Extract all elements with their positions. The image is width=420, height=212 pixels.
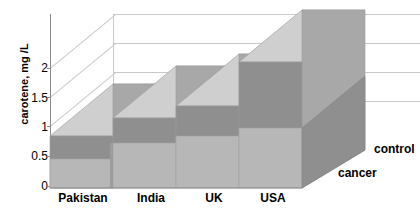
y-tickmark-1-5 [47,97,51,98]
y-tickmark-0 [47,186,51,187]
depth-connector-1-5 [50,43,116,98]
wall-top-edge [113,14,420,15]
x-label-uk: UK [183,191,245,205]
y-tickmark-0-5 [47,156,51,157]
gridline-back-0-5 [113,101,420,102]
plot-back-wall [0,0,420,212]
series-label-cancer: cancer [338,166,377,180]
gridline-back-1 [113,72,420,73]
chart-canvas: carotene, mg /L 2 1.5 1 0.5 0 [0,0,420,212]
series-label-control: control [374,142,415,156]
gridline-back-1-5 [113,43,420,44]
x-label-india: India [120,191,182,205]
y-axis-line [50,14,51,187]
y-tickmark-1 [47,126,51,127]
x-label-usa: USA [242,191,304,205]
y-tickmark-2 [47,68,51,69]
depth-connector-0-5 [50,102,116,157]
depth-connector-1 [50,72,116,127]
depth-connector-2 [50,14,116,69]
x-label-pakistan: Pakistan [52,191,114,205]
wall-left-edge [113,14,114,143]
